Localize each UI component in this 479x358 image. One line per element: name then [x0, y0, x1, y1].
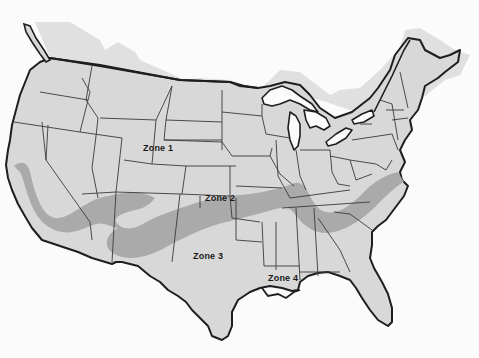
zone-map: Zone 1 Zone 2 Zone 3 Zone 4 — [0, 0, 479, 358]
zone-3-label: Zone 3 — [193, 251, 223, 261]
zone-2-label: Zone 2 — [205, 193, 235, 203]
us-map-graphic — [0, 0, 479, 358]
zone-4-label: Zone 4 — [268, 273, 298, 283]
zone-1-label: Zone 1 — [143, 143, 173, 153]
